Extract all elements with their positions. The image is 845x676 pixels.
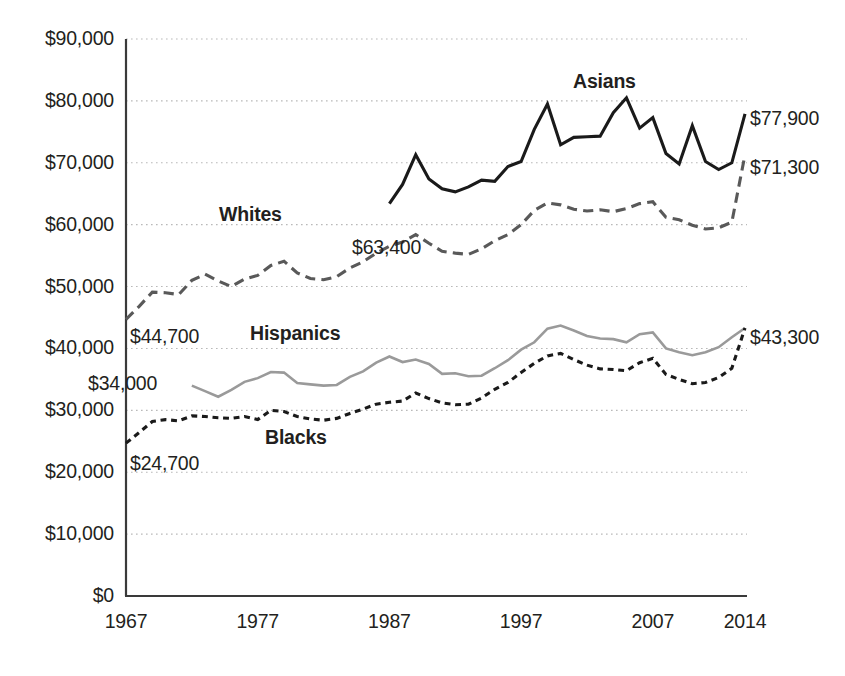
y-tick-label: $80,000 xyxy=(45,89,114,112)
y-tick-label: $90,000 xyxy=(45,27,114,50)
x-tick-label: 1967 xyxy=(76,610,176,633)
y-tick-label: $70,000 xyxy=(45,151,114,174)
x-tick-label: 2014 xyxy=(695,610,795,633)
end-value-annotation-hispanics: $43,300 xyxy=(750,326,819,349)
gridlines-group xyxy=(126,39,747,534)
y-tick-label: $60,000 xyxy=(45,213,114,236)
y-tick-label: $30,000 xyxy=(45,398,114,421)
income-by-race-line-chart: $0$10,000$20,000$30,000$40,000$50,000$60… xyxy=(0,0,845,676)
start-value-annotation-asians: $63,400 xyxy=(352,236,421,259)
series-line-blacks xyxy=(126,328,745,443)
series-paths-group xyxy=(126,98,745,443)
start-value-annotation-whites: $44,700 xyxy=(130,325,199,348)
end-value-annotation-asians: $77,900 xyxy=(750,107,819,130)
series-label-whites: Whites xyxy=(219,203,282,226)
y-tick-label: $0 xyxy=(93,584,114,607)
x-tick-label: 1977 xyxy=(208,610,308,633)
y-tick-label: $20,000 xyxy=(45,460,114,483)
series-label-asians: Asians xyxy=(573,70,636,93)
start-value-annotation-blacks: $24,700 xyxy=(130,452,199,475)
series-line-asians xyxy=(389,98,745,204)
series-label-blacks: Blacks xyxy=(265,426,327,449)
y-tick-label: $10,000 xyxy=(45,522,114,545)
x-tick-label: 2007 xyxy=(603,610,703,633)
start-value-annotation-hispanics: $34,000 xyxy=(88,372,157,395)
series-label-hispanics: Hispanics xyxy=(250,322,340,345)
x-tick-label: 1997 xyxy=(471,610,571,633)
y-tick-label: $40,000 xyxy=(45,336,114,359)
y-tick-label: $50,000 xyxy=(45,275,114,298)
end-value-annotation-whites: $71,300 xyxy=(750,156,819,179)
series-line-whites xyxy=(126,155,745,320)
chart-canvas xyxy=(0,0,845,676)
x-tick-label: 1987 xyxy=(339,610,439,633)
